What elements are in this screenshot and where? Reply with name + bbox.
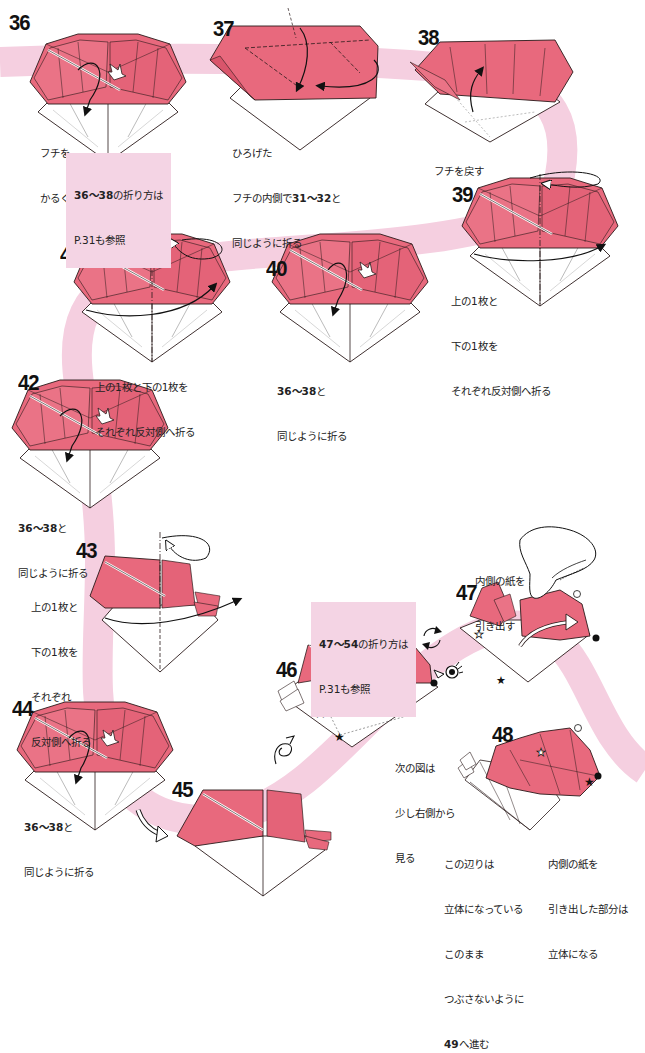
caption-line: 49へ進む <box>444 1037 524 1052</box>
step-number-37: 37 <box>213 18 234 40</box>
step-48-figure: ★ ★ <box>458 725 602 831</box>
caption-line: それぞれ <box>31 690 91 705</box>
caption-line: 少し右側から <box>395 806 455 821</box>
caption-43: 上の1枚と 下の1枚を それぞれ 反対側へ折る <box>31 570 91 765</box>
note-text: の折り方は <box>113 189 163 201</box>
step-number-44: 44 <box>12 698 33 720</box>
caption-text: へ進む <box>459 1038 489 1050</box>
caption-bold-range: 36〜38 <box>277 385 316 397</box>
caption-bold-range: 36〜38 <box>18 522 57 534</box>
caption-line: 下の1枚を <box>31 645 91 660</box>
step-number-46: 46 <box>276 659 297 681</box>
caption-40: 36〜38と 同じように折る <box>277 354 347 459</box>
note-bold-range: 36〜38 <box>74 189 113 201</box>
note-line-2: P.31も参照 <box>74 233 163 248</box>
caption-line: それぞれ反対側へ折る <box>451 384 551 399</box>
note-line-2: P.31も参照 <box>319 682 408 697</box>
caption-39: 上の1枚と 下の1枚を それぞれ反対側へ折る <box>451 264 551 414</box>
note-bold-range: 47〜54 <box>319 638 358 650</box>
step-number-38: 38 <box>418 27 439 49</box>
svg-text:★: ★ <box>584 775 595 789</box>
note-box-36-38: 36〜38の折り方は P.31も参照 <box>66 153 171 268</box>
note-line-1: 47〜54の折り方は <box>319 637 408 652</box>
caption-text: と <box>57 522 67 534</box>
svg-text:★: ★ <box>536 746 546 759</box>
caption-line: このまま <box>444 947 524 962</box>
note-text: の折り方は <box>358 638 408 650</box>
caption-bold-range: 49 <box>444 1038 459 1050</box>
caption-37: ひろげた フチの内側で31〜32と 同じように折る <box>232 116 341 266</box>
step-45-figure <box>177 790 331 896</box>
caption-line: つぶさないように <box>444 992 524 1007</box>
caption-bold-range: 36〜38 <box>24 821 63 833</box>
caption-41: 上の1枚と下の1枚を それぞれ反対側へ折る <box>95 350 195 455</box>
caption-text: と <box>331 192 341 204</box>
caption-44: 36〜38と 同じように折る <box>24 790 94 895</box>
caption-48-left: この辺りは 立体になっている このまま つぶさないように 49へ進む <box>444 827 524 1053</box>
step-number-42: 42 <box>18 372 39 394</box>
caption-line: この辺りは <box>444 857 524 872</box>
caption-bold-range: 31〜32 <box>292 192 331 204</box>
caption-line: 36〜38と <box>18 521 88 536</box>
caption-line: 上の1枚と <box>31 600 91 615</box>
caption-line: 立体になっている <box>444 902 524 917</box>
caption-line: フチを戻す <box>434 164 484 179</box>
svg-text:★: ★ <box>496 674 506 687</box>
step-number-48: 48 <box>492 724 513 746</box>
caption-line: フチの内側で31〜32と <box>232 191 341 206</box>
caption-line: 引き出す <box>475 619 525 634</box>
caption-line: 36〜38と <box>24 820 94 835</box>
hand-icon <box>520 527 596 598</box>
caption-line: 同じように折る <box>277 429 347 444</box>
step-number-36: 36 <box>9 12 30 34</box>
caption-text: フチの内側で <box>232 192 292 204</box>
caption-38: フチを戻す <box>434 134 484 194</box>
caption-line: 上の1枚と <box>451 294 551 309</box>
rotate-icon <box>275 736 294 764</box>
caption-line: 内側の紙を <box>548 857 628 872</box>
caption-text: と <box>316 385 326 397</box>
step-number-45: 45 <box>172 779 193 801</box>
note-line-1: 36〜38の折り方は <box>74 188 163 203</box>
step-number-47: 47 <box>456 582 477 604</box>
caption-line: 反対側へ折る <box>31 735 91 750</box>
black-star-marker: ★ <box>334 730 345 744</box>
caption-line: 引き出した部分は <box>548 902 628 917</box>
caption-line: 上の1枚と下の1枚を <box>95 380 195 395</box>
caption-line: 内側の紙を <box>475 574 525 589</box>
caption-line: ひろげた <box>232 146 341 161</box>
caption-48-right: 内側の紙を 引き出した部分は 立体になる <box>548 827 628 977</box>
black-dot-marker <box>431 680 438 687</box>
caption-line: 同じように折る <box>24 865 94 880</box>
caption-47: 内側の紙を 引き出す <box>475 544 525 649</box>
caption-line: 36〜38と <box>277 384 347 399</box>
caption-line: 同じように折る <box>232 236 341 251</box>
note-box-47-54: 47〜54の折り方は P.31も参照 <box>311 602 416 717</box>
caption-line: 次の図は <box>395 761 455 776</box>
caption-line: 下の1枚を <box>451 339 551 354</box>
caption-line: 立体になる <box>548 947 628 962</box>
caption-text: と <box>63 821 73 833</box>
caption-line: それぞれ反対側へ折る <box>95 425 195 440</box>
